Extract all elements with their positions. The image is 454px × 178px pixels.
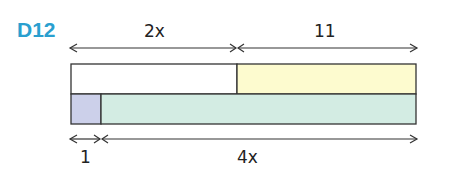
label-1: 1 [80,147,91,167]
segment-2x [71,64,237,94]
label-4x: 4x [237,147,258,167]
segment-4x [101,94,416,124]
bottom-dimension-arrows [70,135,417,143]
bar-model-diagram: 2x 11 1 4x [0,0,454,178]
label-2x: 2x [144,21,165,41]
top-dimension-arrows [70,44,417,52]
segment-11 [237,64,416,94]
segment-1 [71,94,101,124]
bottom-bar [71,94,416,124]
label-11: 11 [314,21,336,41]
top-bar [71,64,416,94]
